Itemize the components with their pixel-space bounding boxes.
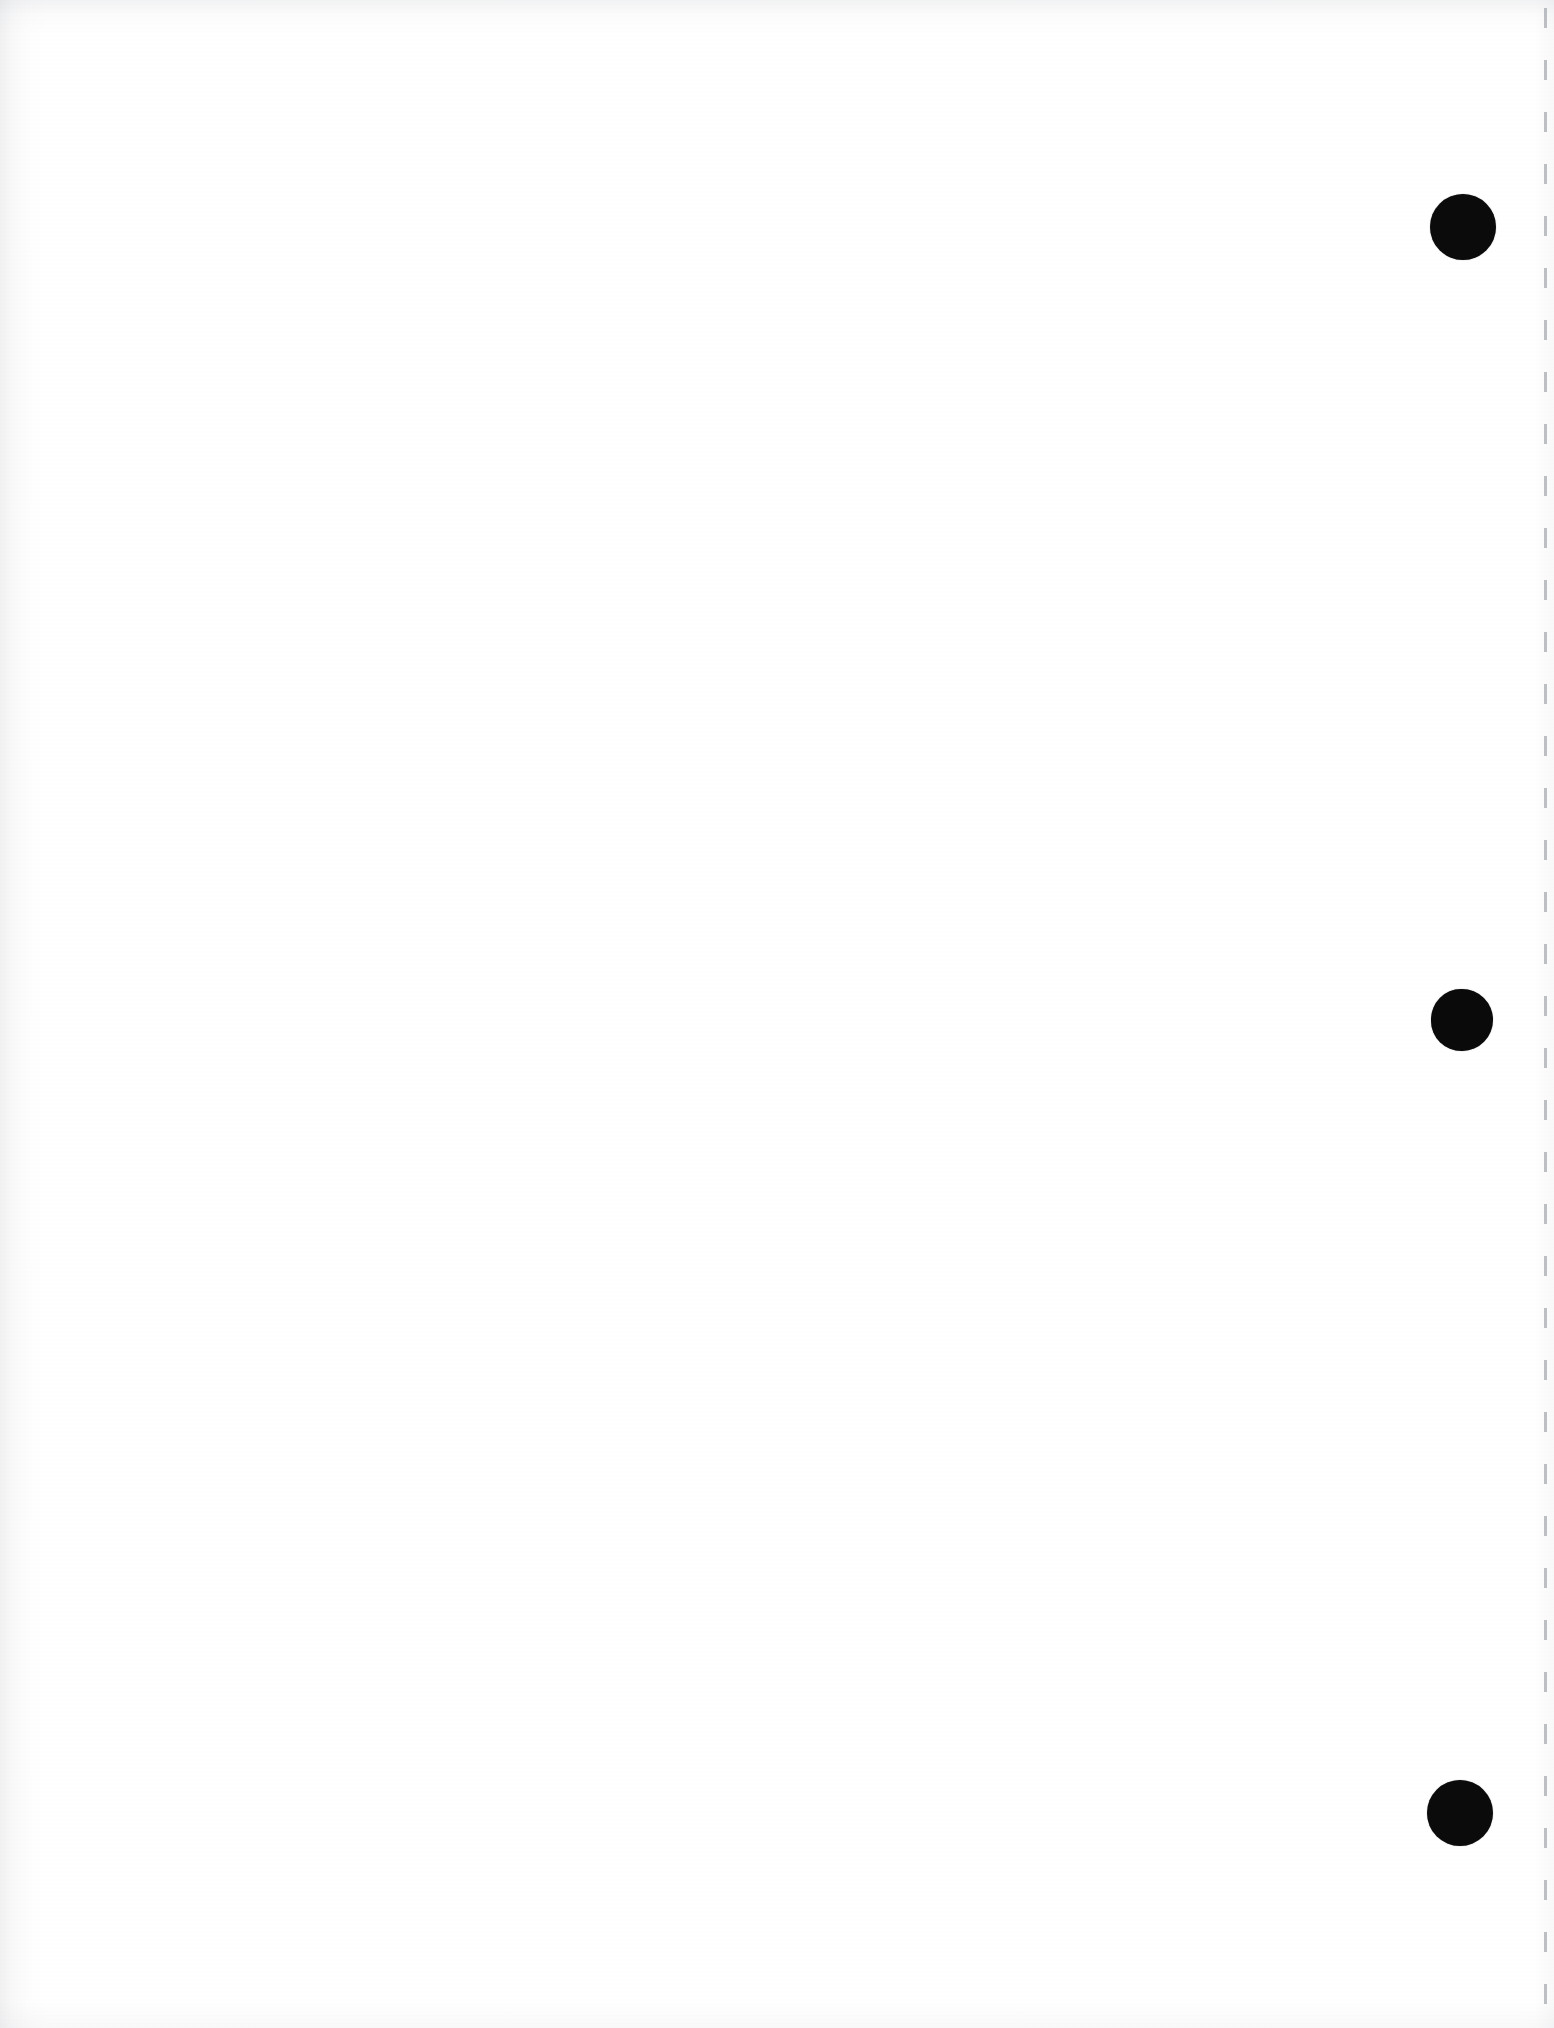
scanned-page (0, 0, 1554, 2028)
punch-dot-top (1430, 194, 1496, 260)
page-body-text (150, 160, 1330, 1860)
punch-dot-bottom (1427, 1780, 1493, 1846)
punch-dot-middle (1431, 989, 1493, 1051)
